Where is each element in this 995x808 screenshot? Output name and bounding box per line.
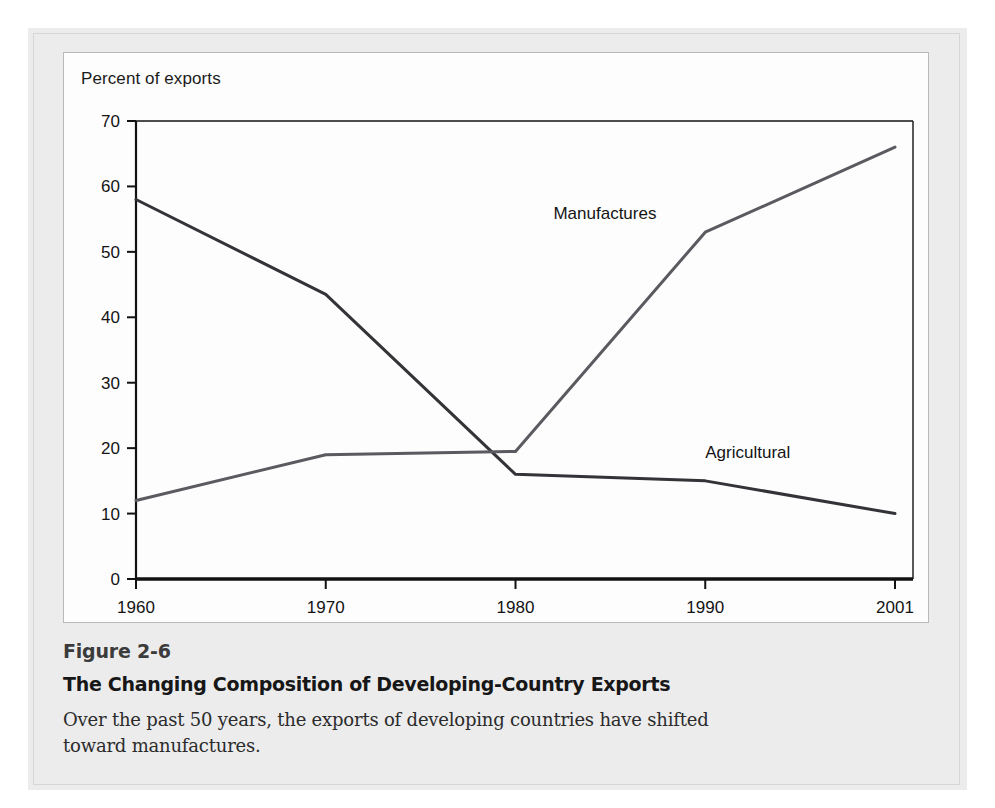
y-axis-ticks: 010203040506070	[101, 112, 136, 589]
svg-text:0: 0	[111, 570, 120, 589]
svg-text:20: 20	[101, 439, 120, 458]
figure-caption-block: Figure 2-6 The Changing Composition of D…	[63, 640, 943, 758]
series-label-manufactures: Manufactures	[553, 204, 656, 223]
figure-page: Percent of exports 010203040506070 19601…	[0, 0, 995, 808]
svg-text:10: 10	[101, 505, 120, 524]
svg-text:40: 40	[101, 308, 120, 327]
svg-text:1970: 1970	[307, 598, 345, 617]
figure-number: Figure 2-6	[63, 640, 943, 662]
axis-lines	[135, 121, 913, 579]
svg-text:1960: 1960	[117, 598, 155, 617]
svg-text:50: 50	[101, 243, 120, 262]
line-chart-svg: 010203040506070 19601970198019902001 Agr…	[64, 53, 930, 624]
svg-text:1980: 1980	[497, 598, 535, 617]
svg-text:2001: 2001	[876, 598, 914, 617]
series-annotations: AgriculturalManufactures	[553, 204, 790, 462]
svg-text:70: 70	[101, 112, 120, 131]
plot-area: 010203040506070 19601970198019902001 Agr…	[64, 53, 930, 624]
chart-card: Percent of exports 010203040506070 19601…	[63, 52, 929, 623]
svg-text:60: 60	[101, 177, 120, 196]
svg-text:1990: 1990	[686, 598, 724, 617]
figure-description: Over the past 50 years, the exports of d…	[63, 707, 763, 758]
series-label-agricultural: Agricultural	[705, 443, 790, 462]
figure-title: The Changing Composition of Developing-C…	[63, 673, 943, 695]
x-axis-ticks: 19601970198019902001	[117, 579, 914, 617]
svg-text:30: 30	[101, 374, 120, 393]
series-line-agricultural	[136, 200, 895, 514]
